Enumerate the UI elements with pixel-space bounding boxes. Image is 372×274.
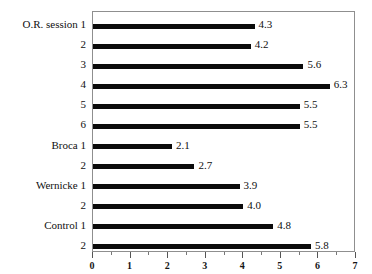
x-axis-major-tick (92, 252, 93, 258)
bar (93, 144, 172, 149)
bar (93, 64, 303, 69)
x-axis-minor-tick (148, 252, 149, 255)
bar-value-label: 4.8 (277, 220, 291, 231)
bar-value-label: 2.1 (176, 140, 190, 151)
x-axis-major-tick (130, 252, 131, 258)
x-axis-major-tick (280, 252, 281, 258)
y-axis-tick-label: 2 (0, 200, 86, 211)
y-axis-tick-label: Control 1 (0, 220, 86, 231)
x-axis-major-tick (355, 252, 356, 258)
x-axis-tick-label: 1 (120, 261, 140, 271)
x-axis-minor-tick (224, 252, 225, 255)
y-axis-tick-label: 2 (0, 160, 86, 171)
y-axis-tick-label: 2 (0, 240, 86, 251)
y-axis-tick-label: Wernicke 1 (0, 180, 86, 191)
bar-value-label: 4.0 (247, 200, 261, 211)
y-axis-tick-label: 2 (0, 39, 86, 50)
bar (93, 124, 300, 129)
y-axis-tick-label: 4 (0, 79, 86, 90)
x-axis-tick-label: 5 (270, 261, 290, 271)
x-axis-major-tick (317, 252, 318, 258)
y-axis-tick-label: Broca 1 (0, 140, 86, 151)
x-axis-minor-tick (111, 252, 112, 255)
bar-value-label: 3.9 (244, 180, 258, 191)
x-axis-major-tick (205, 252, 206, 258)
bar (93, 184, 240, 189)
bar (93, 204, 243, 209)
x-axis-tick-label: 0 (82, 261, 102, 271)
bar (93, 44, 251, 49)
x-axis-minor-tick (261, 252, 262, 255)
bar-value-label: 5.6 (307, 59, 321, 70)
x-axis-tick-label: 3 (195, 261, 215, 271)
bar-value-label: 4.2 (255, 39, 269, 50)
bar (93, 24, 255, 29)
bar-chart: O.R. session 123456Broca 12Wernicke 12Co… (0, 0, 372, 274)
x-axis-tick-label: 6 (307, 261, 327, 271)
x-axis-minor-tick (336, 252, 337, 255)
bar (93, 104, 300, 109)
bar-value-label: 6.3 (334, 79, 348, 90)
y-axis-tick-label: O.R. session 1 (0, 19, 86, 30)
bar-value-label: 5.5 (304, 99, 318, 110)
x-axis-tick-label: 4 (232, 261, 252, 271)
y-axis-tick-label: 3 (0, 59, 86, 70)
x-axis-tick-label: 2 (157, 261, 177, 271)
x-axis-minor-tick (299, 252, 300, 255)
bar (93, 224, 273, 229)
bar (93, 164, 194, 169)
y-axis-tick-label: 5 (0, 99, 86, 110)
x-axis-major-tick (167, 252, 168, 258)
x-axis-tick-label: 7 (345, 261, 365, 271)
x-axis-major-tick (242, 252, 243, 258)
bar-value-label: 5.8 (315, 240, 329, 251)
bar-value-label: 2.7 (198, 160, 212, 171)
x-axis-minor-tick (186, 252, 187, 255)
bar (93, 84, 330, 89)
bar-value-label: 4.3 (259, 19, 273, 30)
bar-value-label: 5.5 (304, 119, 318, 130)
bar (93, 244, 311, 249)
plot-area (92, 11, 355, 252)
y-axis-tick-label: 6 (0, 119, 86, 130)
